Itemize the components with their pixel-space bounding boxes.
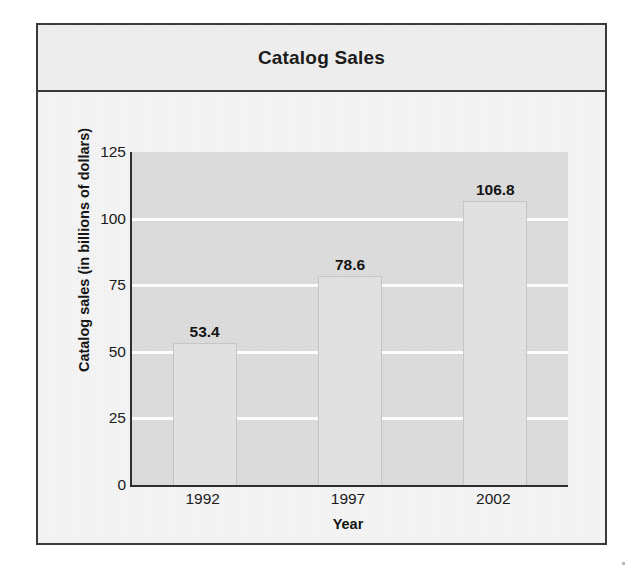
bar-value-label: 78.6 — [335, 256, 365, 274]
y-axis-tick-label: 50 — [109, 343, 126, 361]
x-axis-tick-label: 1992 — [185, 490, 219, 508]
bar-value-label: 106.8 — [476, 181, 515, 199]
bar-value-label: 53.4 — [190, 323, 220, 341]
y-axis-tick-label: 100 — [100, 210, 126, 228]
chart-body: Catalog sales (in billions of dollars) 0… — [38, 94, 605, 543]
x-axis-tick-label: 2002 — [476, 490, 510, 508]
chart-title-band: Catalog Sales — [38, 25, 605, 92]
y-axis-tick-label: 125 — [100, 143, 126, 161]
y-axis-tick-label: 25 — [109, 409, 126, 427]
bar: 78.6 — [318, 276, 382, 485]
figure-frame: Catalog Sales Catalog sales (in billions… — [36, 23, 607, 545]
y-axis-tick-label: 75 — [109, 276, 126, 294]
chart-title: Catalog Sales — [258, 47, 385, 69]
x-axis-title: Year — [130, 516, 566, 532]
y-axis-tick-label: 0 — [117, 476, 126, 494]
bar: 106.8 — [463, 201, 527, 486]
scan-speck — [622, 562, 625, 565]
plot-area: 53.478.6106.8 — [130, 152, 568, 487]
x-axis-tick-labels: 199219972002 — [130, 490, 566, 514]
x-axis-tick-label: 1997 — [331, 490, 365, 508]
y-axis-tick-labels: 0255075100125 — [78, 152, 126, 485]
bar: 53.4 — [173, 343, 237, 485]
